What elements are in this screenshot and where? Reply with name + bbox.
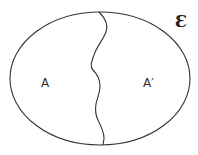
- set-a-complement-label: A′: [143, 76, 154, 90]
- complement-divider-curve: [91, 12, 107, 145]
- set-a-label: A: [41, 76, 50, 90]
- universal-set-label: Ɛ: [175, 11, 187, 31]
- venn-diagram: Ɛ A A′: [0, 0, 198, 155]
